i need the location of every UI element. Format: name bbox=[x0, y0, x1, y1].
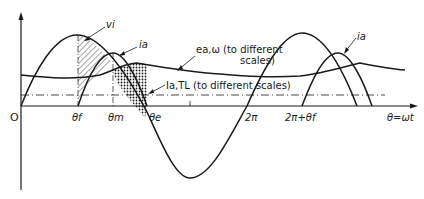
ia-curve-second bbox=[302, 53, 372, 106]
theta-m-label: θm bbox=[108, 112, 124, 123]
ia-tl-label: Ia,TL (to different scales) bbox=[166, 80, 291, 91]
ia-second-label: ia bbox=[357, 31, 366, 42]
theta-e-label: θe bbox=[149, 112, 161, 123]
waveform-diagram: O θf θm θe 2π 2π+θf θ=ωt vi ia ia ea,ω (… bbox=[0, 0, 424, 199]
x-axis-label: θ=ωt bbox=[387, 112, 415, 123]
theta-f-label: θf bbox=[72, 112, 83, 123]
vi-label: vi bbox=[106, 19, 115, 30]
two-pi-label: 2π bbox=[245, 112, 258, 123]
ia-first-leader-arrow-icon bbox=[119, 51, 125, 56]
ia-first-label: ia bbox=[139, 39, 148, 50]
ea-omega-label-line2: scales) bbox=[240, 55, 275, 66]
x-axis-arrow-icon bbox=[410, 104, 418, 109]
y-axis-arrow-icon bbox=[19, 12, 24, 20]
ia-tl-leader-arrow-icon bbox=[148, 89, 154, 94]
ea-omega-label-line1: ea,ω (to different bbox=[196, 44, 283, 55]
two-pi-plus-theta-f-label: 2π+θf bbox=[285, 112, 317, 123]
origin-label: O bbox=[10, 111, 19, 124]
